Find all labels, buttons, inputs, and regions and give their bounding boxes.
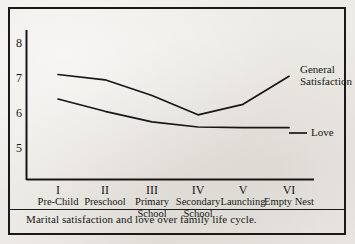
figure-caption: Marital satisfaction and love over famil… [26, 213, 257, 226]
y-tick-label-5: 5 [6, 142, 22, 154]
y-tick-label-7: 7 [6, 72, 22, 84]
series-label-general-satisfaction-line1: General [300, 64, 335, 76]
figure-container: 8 7 6 5 I II III IV V VI Pre-Child Presc… [0, 0, 355, 244]
caption-divider [10, 209, 344, 210]
y-tick-label-6: 6 [6, 107, 22, 119]
x-stage-label-empty-nest: Empty Nest [258, 196, 320, 208]
y-tick-label-8: 8 [6, 37, 22, 49]
series-line-love [58, 99, 289, 128]
series-label-general-satisfaction-line2: Satisfaction [300, 76, 352, 88]
series-label-love: Love [311, 127, 334, 139]
